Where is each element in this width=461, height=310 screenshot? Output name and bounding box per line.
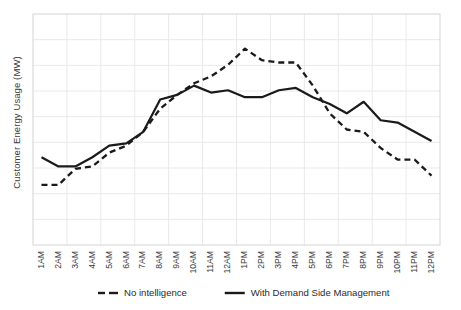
x-tick-10AM: 10AM [188, 251, 198, 273]
legend-label-1: No intelligence [124, 287, 187, 298]
x-tick-9PM: 9PM [375, 251, 385, 269]
x-tick-2AM: 2AM [53, 251, 63, 269]
x-tick-4AM: 4AM [87, 251, 97, 269]
x-tick-3PM: 3PM [273, 251, 283, 269]
x-tick-2PM: 2PM [256, 251, 266, 269]
x-tick-8AM: 8AM [154, 251, 164, 269]
x-tick-1AM: 1AM [36, 251, 46, 269]
x-tick-7AM: 7AM [137, 251, 147, 269]
legend-label-2: With Demand Side Management [251, 287, 390, 298]
x-tick-11AM: 11AM [205, 251, 215, 273]
x-tick-9AM: 9AM [171, 251, 181, 269]
plot-svg: 1AM2AM3AM4AM5AM6AM7AM8AM9AM10AM11AM12AM1… [0, 0, 461, 310]
x-tick-1PM: 1PM [239, 251, 249, 269]
energy-usage-line-chart: Customer Energy Usage (MW) 1AM2AM3AM4AM5… [0, 0, 461, 310]
x-tick-6PM: 6PM [324, 251, 334, 269]
x-tick-12PM: 12PM [426, 251, 436, 273]
x-tick-4PM: 4PM [290, 251, 300, 269]
x-axis-tick-labels: 1AM2AM3AM4AM5AM6AM7AM8AM9AM10AM11AM12AM1… [36, 251, 436, 273]
x-tick-11PM: 11PM [409, 251, 419, 273]
x-tick-5PM: 5PM [307, 251, 317, 269]
x-tick-5AM: 5AM [104, 251, 114, 269]
chart-legend: No intelligenceWith Demand Side Manageme… [98, 287, 390, 298]
x-tick-12AM: 12AM [222, 251, 232, 273]
x-tick-6AM: 6AM [121, 251, 131, 269]
x-tick-8PM: 8PM [358, 251, 368, 269]
x-tick-3AM: 3AM [70, 251, 80, 269]
x-tick-7PM: 7PM [341, 251, 351, 269]
x-tick-10PM: 10PM [392, 251, 402, 273]
